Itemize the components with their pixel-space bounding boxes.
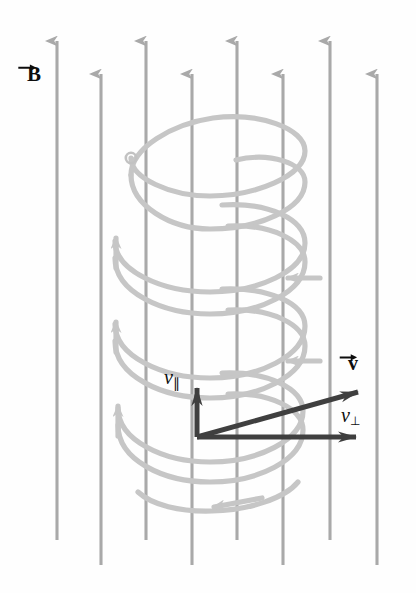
helix-turn bbox=[131, 157, 305, 229]
helical-trajectory bbox=[115, 117, 305, 511]
vector-arrow-icon bbox=[339, 352, 357, 362]
velocity-label: v bbox=[348, 352, 358, 375]
velocity-parallel-label: v∥ bbox=[164, 366, 180, 392]
diagram-canvas bbox=[0, 0, 416, 593]
helix-turn bbox=[115, 289, 305, 378]
vector-arrow-icon bbox=[17, 62, 36, 73]
helix-turn bbox=[131, 117, 305, 196]
velocity-perpendicular-base: v bbox=[341, 404, 350, 426]
magnetic-field-label: B bbox=[27, 62, 41, 87]
velocity-perpendicular-subscript: ⊥ bbox=[350, 414, 360, 428]
velocity-parallel-subscript: ∥ bbox=[173, 375, 180, 391]
helix-turn bbox=[115, 310, 305, 398]
velocity-perpendicular-label: v⊥ bbox=[341, 404, 360, 429]
helix-turn bbox=[115, 226, 305, 314]
physics-diagram-helical-motion: B v v∥ v⊥ bbox=[0, 0, 416, 593]
velocity-parallel-base: v bbox=[164, 366, 173, 388]
